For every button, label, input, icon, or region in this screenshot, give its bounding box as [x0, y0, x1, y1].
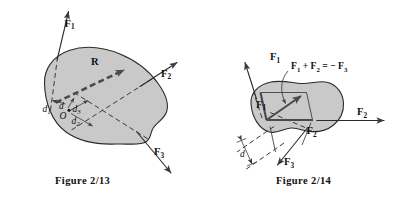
equation-f1-plus-f2: F1 + F2 = − F3: [291, 60, 348, 73]
figure-2-13-group: F1 F2 F3 R d1 d d3 d2 O: [43, 12, 178, 174]
label-f1-outer-right: F1: [270, 51, 280, 65]
figure-sheet: F1 F2 F3 R d1 d d3 d2 O: [0, 0, 399, 198]
rigid-body-shape-left: [44, 47, 167, 144]
point-o-marker-left: [68, 109, 71, 112]
label-f2-left: F2: [161, 68, 171, 82]
label-resultant-r: R: [91, 56, 99, 67]
offset-tick-upper: [237, 139, 247, 143]
label-d: d: [59, 101, 64, 111]
figure-caption-left: Figure 2/13: [55, 175, 110, 186]
figure-caption-right: Figure 2/14: [276, 175, 331, 186]
label-f2-outer-right: F2: [357, 106, 367, 120]
label-f3-left: F3: [154, 146, 164, 160]
offset-guide-line-lower: [245, 143, 284, 170]
label-f1-left: F1: [65, 18, 75, 32]
label-point-o: O: [60, 111, 67, 121]
label-d-right: d: [240, 149, 245, 159]
f1-arrow-right: [245, 63, 257, 100]
figures-canvas: F1 F2 F3 R d1 d d3 d2 O: [0, 0, 399, 198]
label-f3-right: F3: [284, 156, 294, 170]
figure-2-14-group: F1 F1 F2 F2 F3 d F1 + F2 = − F3: [237, 51, 385, 170]
f3-arrow-right: [278, 129, 308, 166]
